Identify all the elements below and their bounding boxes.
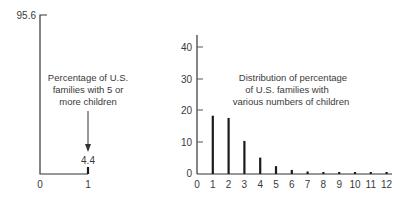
left-chart-top-label: 95.6 [17, 10, 37, 21]
x-label-11: 11 [366, 179, 377, 190]
left-chart-annotation-line-1: Percentage of U.S. [48, 72, 128, 83]
x-label-8: 8 [321, 179, 327, 190]
x-label-7: 7 [305, 179, 311, 190]
down-arrow-icon [85, 144, 91, 152]
right-chart-annotation-line-3: various numbers of children [233, 96, 350, 107]
x-label-1: 1 [210, 179, 216, 190]
y-label-40: 40 [181, 42, 193, 53]
y-label-30: 30 [181, 74, 193, 85]
left-chart-annotation-line-3: more children [59, 96, 117, 107]
x-label-5: 5 [273, 179, 279, 190]
left-chart: 95.6 Percentage of U.S. families with 5 … [17, 10, 129, 190]
y-label-20: 20 [181, 105, 193, 116]
x-label-12: 12 [381, 179, 393, 190]
right-chart: 40 30 20 10 0 Distribution of percentage… [181, 35, 393, 190]
x-label-3: 3 [242, 179, 248, 190]
left-chart-x-label-0: 0 [37, 179, 43, 190]
x-label-0: 0 [194, 179, 200, 190]
right-chart-annotation-line-1: Distribution of percentage [239, 72, 347, 83]
left-chart-value-label: 4.4 [81, 155, 95, 166]
x-label-6: 6 [289, 179, 295, 190]
right-chart-annotation-line-2: of U.S. families with [245, 84, 328, 95]
x-label-4: 4 [257, 179, 263, 190]
x-label-9: 9 [336, 179, 342, 190]
chart-figure: 95.6 Percentage of U.S. families with 5 … [0, 0, 409, 199]
x-label-10: 10 [349, 179, 361, 190]
left-chart-x-label-1: 1 [85, 179, 91, 190]
x-label-2: 2 [226, 179, 232, 190]
left-chart-annotation-line-2: families with 5 or [53, 84, 124, 95]
right-chart-x-labels: 0123456789101112 [194, 179, 392, 190]
right-chart-bars [213, 116, 387, 174]
y-label-10: 10 [181, 137, 193, 148]
y-label-0: 0 [186, 168, 192, 179]
